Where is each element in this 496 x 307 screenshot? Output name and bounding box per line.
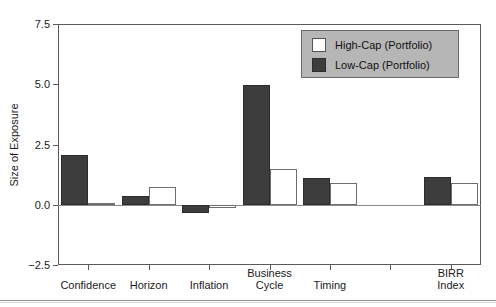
legend-label-high-cap: High-Cap (Portfolio) — [335, 39, 432, 51]
legend-item-low-cap: Low-Cap (Portfolio) — [312, 57, 430, 73]
y-tick-label: 5.0 — [35, 78, 50, 90]
legend-swatch-high-cap — [312, 38, 326, 52]
legend-label-low-cap: Low-Cap (Portfolio) — [335, 59, 430, 71]
bar-high-cap — [88, 203, 115, 205]
bar-low-cap — [122, 196, 149, 204]
x-category-label: Horizon — [130, 279, 168, 291]
bar-low-cap — [303, 178, 330, 205]
chart-legend: High-Cap (Portfolio) Low-Cap (Portfolio) — [301, 30, 459, 78]
x-tick-mark — [209, 265, 210, 270]
x-category-label: Business Cycle — [247, 267, 292, 291]
figure-top-caption — [14, 0, 344, 8]
bar-low-cap — [61, 155, 88, 204]
y-tick-label: 0.0 — [35, 199, 50, 211]
y-tick-label: −2.5 — [28, 259, 50, 271]
bar-high-cap — [209, 205, 236, 209]
y-tick-label: 2.5 — [35, 139, 50, 151]
bar-high-cap — [451, 183, 478, 205]
x-tick-mark — [88, 265, 89, 270]
chart-figure: Size of Exposure −2.50.02.55.07.5 Confid… — [0, 0, 496, 307]
bar-high-cap — [330, 183, 357, 205]
x-tick-mark — [390, 265, 391, 270]
x-category-label: Confidence — [60, 279, 116, 291]
bar-low-cap — [243, 85, 270, 204]
bar-low-cap — [182, 205, 209, 213]
footer-rule-shadow — [0, 302, 496, 303]
bar-high-cap — [270, 169, 297, 205]
bar-high-cap — [149, 187, 176, 205]
x-tick-mark — [149, 265, 150, 270]
x-category-label: BIRR Index — [436, 267, 466, 291]
footer-rule — [0, 300, 496, 301]
y-tick-mark — [53, 265, 58, 266]
x-category-label: Timing — [314, 279, 347, 291]
x-tick-mark — [330, 265, 331, 270]
y-tick-label: 7.5 — [35, 18, 50, 30]
legend-swatch-low-cap — [312, 58, 326, 72]
legend-item-high-cap: High-Cap (Portfolio) — [312, 37, 432, 53]
bar-low-cap — [424, 177, 451, 205]
y-axis-title: Size of Exposure — [8, 103, 20, 186]
x-category-label: Inflation — [190, 279, 229, 291]
